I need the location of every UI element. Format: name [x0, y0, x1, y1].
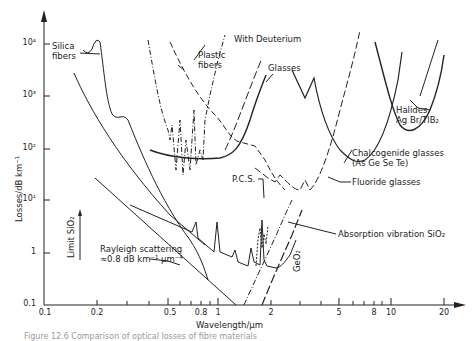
label-geo2: GeO₂ [292, 250, 302, 272]
curve-halides-right [420, 40, 438, 96]
x-ticks [97, 298, 444, 305]
label-plastic-line2: fibers [198, 60, 222, 70]
leader-absorption [288, 222, 336, 234]
y-ticks [44, 44, 50, 253]
label-silica-line2: fibers [52, 51, 76, 61]
x-tick-label: 0.5 [164, 308, 177, 317]
curve-chalcogenide [292, 52, 402, 162]
label-chalco-line2: (As Ge Se Te) [352, 158, 408, 168]
label-rayleigh-line2: ≈0.8 dB km⁻¹ µm⁻⁴ [100, 254, 183, 264]
x-axis-title: Wavelength/µm [196, 320, 263, 330]
label-glasses: Glasses [268, 63, 301, 73]
label-halides-line2: Ag Br/TlB₂ [396, 115, 439, 125]
label-pcs: P.C.S. [232, 174, 255, 184]
x-axis-arrow [454, 302, 466, 308]
label-with-deuterium: With Deuterium [234, 34, 301, 44]
label-chalco-line1: Chalcogenide glasses [352, 148, 444, 158]
label-silica-line1: Silica [52, 41, 74, 51]
curve-pcs [256, 226, 268, 266]
curve-glasses [150, 75, 266, 159]
y-tick-label: 0.1 [8, 299, 36, 308]
label-halides-line1: Halides [396, 105, 427, 115]
label-rayleigh: Rayleigh scattering≈0.8 dB km⁻¹ µm⁻⁴ [100, 244, 183, 264]
figure-caption: Figure 12.6 Comparison of optical losses… [24, 332, 257, 341]
label-plastic-fibers: Plasticfibers [198, 50, 226, 70]
label-halides: HalidesAg Br/TlB₂ [396, 105, 439, 125]
label-chalcogenide: Chalcogenide glasses(As Ge Se Te) [352, 148, 444, 168]
x-tick-label: 0.1 [39, 308, 52, 317]
label-limit-sio2: Limit SiO₂ [66, 216, 76, 258]
leader-glasses [266, 74, 273, 82]
leader-chalco [344, 150, 352, 163]
x-tick-label: 0.8 [195, 308, 208, 317]
x-tick-label: 1 [215, 308, 220, 317]
y-tick-label: 10³ [8, 90, 36, 99]
x-tick-label: 8 [371, 308, 376, 317]
leader-silica [80, 53, 100, 54]
x-tick-label: 20 [439, 308, 449, 317]
curve-fluoride [255, 30, 360, 190]
x-tick-label: 2 [268, 308, 273, 317]
y-axis-title: Losses/dB km⁻¹ [14, 156, 24, 222]
curve-silica-secondary [74, 73, 205, 245]
label-absorption-sio2: Absorption vibration SiO₂ [338, 229, 445, 239]
label-plastic-line1: Plastic [198, 50, 226, 60]
y-tick-label: 1 [8, 247, 36, 256]
label-silica-fibers: Silicafibers [52, 41, 76, 61]
y-tick-label: 10² [8, 143, 36, 152]
x-tick-label: 5 [336, 308, 341, 317]
x-tick-label: 0.2 [91, 308, 104, 317]
leader-plastic [178, 65, 184, 70]
label-rayleigh-line1: Rayleigh scattering [100, 244, 182, 254]
limit-sio2-arrow-head [78, 209, 82, 216]
y-axis-arrow [41, 10, 47, 22]
leader-pcs [258, 179, 264, 198]
x-tick-label: 10 [386, 308, 396, 317]
label-fluoride-glasses: Fluoride glasses [352, 177, 421, 187]
leader-fluoride [328, 177, 351, 182]
y-tick-label: 10⁴ [8, 38, 36, 47]
